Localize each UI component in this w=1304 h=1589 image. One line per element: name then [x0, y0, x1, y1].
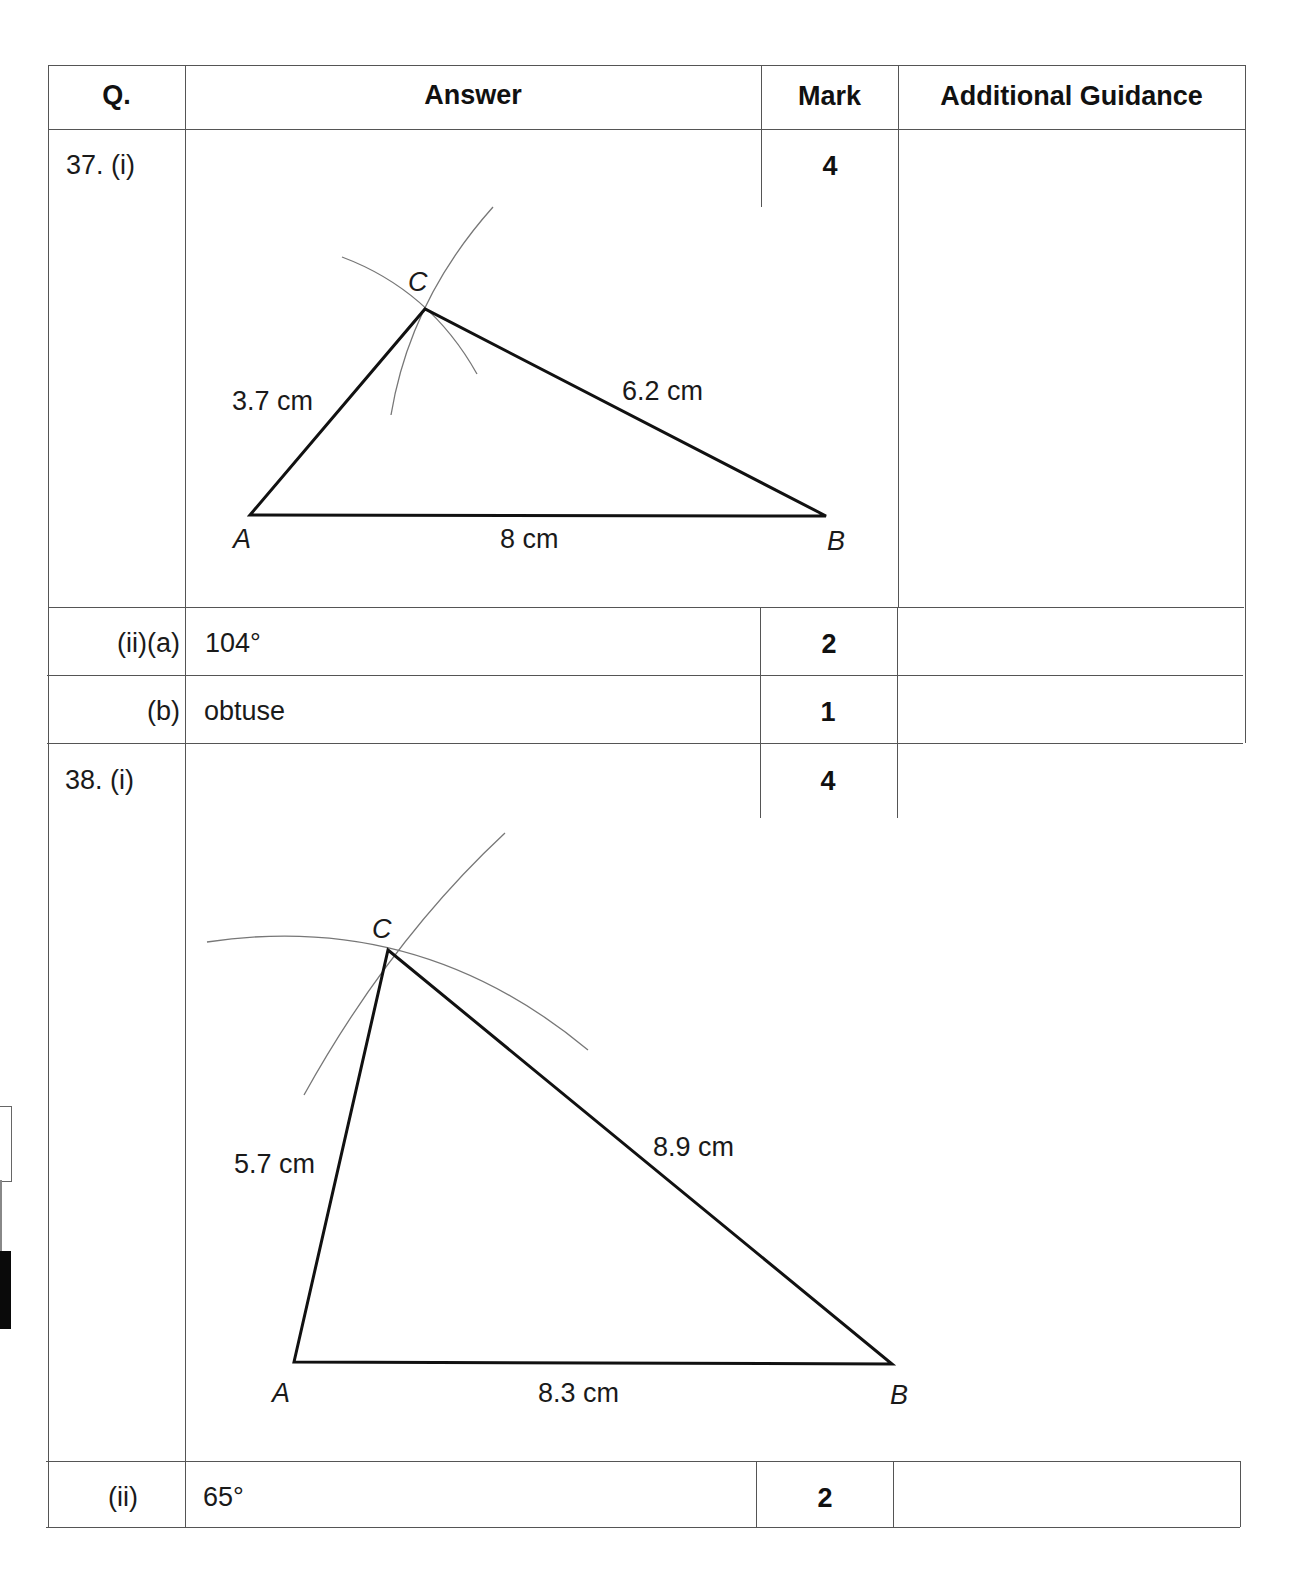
- table-border-bottom: [46, 1527, 1240, 1528]
- table-border-right: [1240, 1461, 1241, 1527]
- row-divider: [46, 1461, 1240, 1462]
- vertex-label-c: C: [372, 914, 392, 944]
- question-number: (ii): [108, 1482, 138, 1513]
- vertex-label-a: A: [270, 1378, 290, 1408]
- margin-bracket-mark: [0, 1106, 12, 1182]
- triangle-abc: [294, 950, 892, 1364]
- triangle-construction-diagram-38: C A B 5.7 cm 8.9 cm 8.3 cm: [0, 0, 1304, 1460]
- side-label-ac: 5.7 cm: [234, 1149, 315, 1179]
- answer-value: 65°: [203, 1482, 244, 1513]
- side-label-ab: 8.3 cm: [538, 1378, 619, 1408]
- vertex-label-b: B: [890, 1380, 908, 1410]
- construction-arc: [207, 936, 588, 1050]
- side-label-cb: 8.9 cm: [653, 1132, 734, 1162]
- margin-tab-line: [0, 1180, 2, 1251]
- margin-black-tab: [0, 1251, 11, 1329]
- mark-value: 2: [756, 1483, 894, 1514]
